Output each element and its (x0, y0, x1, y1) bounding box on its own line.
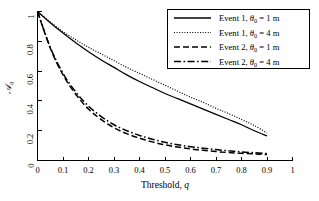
chart-figure: 00.10.20.30.40.50.60.70.80.91 00.20.40.6… (0, 0, 319, 201)
x-tick-label: 0.2 (83, 165, 94, 175)
legend-label-1: Event 1, θ0 = 1 m (219, 13, 280, 24)
x-tick-label: 1 (290, 165, 294, 175)
x-tick-label: 0.6 (185, 165, 196, 175)
x-tick-label: 0.7 (211, 165, 222, 175)
y-tick-label: 1 (26, 15, 36, 19)
legend: Event 1, θ0 = 1 mEvent 1, θ0 = 4 mEvent … (168, 10, 310, 69)
legend-label-2: Event 1, θ0 = 4 m (219, 28, 280, 39)
y-tick-label: 0.8 (26, 44, 36, 55)
y-tick-label: 0.6 (26, 74, 36, 85)
x-tick-label: 0.8 (236, 165, 247, 175)
x-tick-label: 0.1 (58, 165, 69, 175)
x-tick-label: 0.4 (134, 165, 145, 175)
y-tick-label: 0.2 (26, 134, 36, 145)
x-tick-label: 0 (35, 165, 39, 175)
y-tick-label: 0.4 (26, 103, 36, 114)
x-tick-label: 0.5 (160, 165, 171, 175)
x-tick-label: 0.3 (109, 165, 120, 175)
legend-label-4: Event 2, θ0 = 4 m (219, 57, 280, 68)
legend-label-3: Event 2, θ0 = 1 m (219, 42, 280, 53)
x-axis-title: Threshold, q (141, 180, 189, 190)
x-tick-label: 0.9 (262, 165, 273, 175)
y-tick-label: 0 (26, 164, 36, 168)
line-chart: 00.10.20.30.40.50.60.70.80.91 00.20.40.6… (0, 0, 319, 201)
